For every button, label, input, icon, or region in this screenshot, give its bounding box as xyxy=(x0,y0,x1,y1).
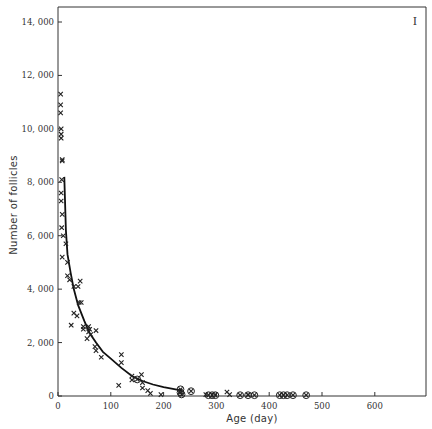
x-marker-icon xyxy=(58,92,62,96)
x-marker-icon xyxy=(94,328,98,332)
y-tick-label: 4, 000 xyxy=(27,284,54,294)
x-marker-icon xyxy=(81,324,85,328)
follicle-scatter-chart: 0100200300400500600 02, 0004, 0006, 0008… xyxy=(0,0,432,429)
x-marker-icon xyxy=(59,132,63,136)
x-marker-icon xyxy=(139,372,143,376)
circled-x-marker-icon xyxy=(303,392,310,399)
circled-x-marker-icon xyxy=(245,392,252,399)
y-axis-ticks: 02, 0004, 0006, 0008, 00010, 00012, 0001… xyxy=(22,17,62,401)
y-tick-label: 6, 000 xyxy=(27,231,54,241)
x-marker-icon xyxy=(140,386,144,390)
x-marker-icon xyxy=(119,360,123,364)
x-marker-icon xyxy=(148,391,152,395)
x-marker-icon xyxy=(75,314,79,318)
circled-x-marker-icon xyxy=(251,392,258,399)
x-marker-icon xyxy=(58,103,62,107)
x-tick-label: 0 xyxy=(55,401,60,411)
x-marker-icon xyxy=(59,226,63,230)
x-marker-icon xyxy=(78,279,82,283)
x-marker-icon xyxy=(59,136,63,140)
x-marker-icon xyxy=(85,336,89,340)
x-marker-icon xyxy=(119,352,123,356)
x-tick-label: 100 xyxy=(103,401,119,411)
x-marker-icon xyxy=(65,274,69,278)
x-marker-points xyxy=(58,92,250,397)
circled-x-marker-icon xyxy=(237,392,244,399)
x-tick-label: 200 xyxy=(155,401,171,411)
y-tick-label: 2, 000 xyxy=(27,338,54,348)
fitted-curve xyxy=(64,177,182,391)
y-axis-label: Number of follicles xyxy=(8,155,19,254)
circled-x-marker-icon xyxy=(188,388,195,395)
y-tick-label: 10, 000 xyxy=(22,124,54,134)
x-axis-label: Age (day) xyxy=(226,413,277,424)
x-marker-icon xyxy=(117,383,121,387)
y-tick-label: 12, 000 xyxy=(22,70,54,80)
y-tick-label: 8, 000 xyxy=(27,177,54,187)
x-tick-label: 600 xyxy=(367,401,383,411)
y-tick-label: 0 xyxy=(49,391,54,401)
x-marker-icon xyxy=(93,344,97,348)
x-marker-icon xyxy=(76,284,80,288)
panel-label: I xyxy=(413,15,417,28)
fitted-curve-line xyxy=(64,177,182,391)
x-marker-icon xyxy=(69,323,73,327)
x-tick-label: 400 xyxy=(261,401,277,411)
x-marker-icon xyxy=(225,390,229,394)
x-marker-icon xyxy=(94,348,98,352)
circled-x-marker-icon xyxy=(212,392,219,399)
x-marker-icon xyxy=(59,199,63,203)
y-tick-label: 14, 000 xyxy=(22,17,54,27)
plot-frame xyxy=(58,7,426,396)
x-marker-icon xyxy=(60,255,64,259)
x-marker-icon xyxy=(99,355,103,359)
x-marker-icon xyxy=(58,111,62,115)
x-marker-icon xyxy=(59,191,63,195)
x-tick-label: 500 xyxy=(314,401,330,411)
x-tick-label: 300 xyxy=(208,401,224,411)
x-marker-icon xyxy=(59,177,63,181)
x-marker-icon xyxy=(60,212,64,216)
